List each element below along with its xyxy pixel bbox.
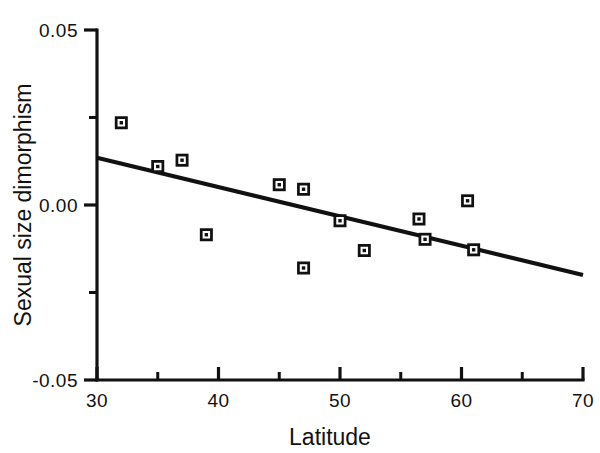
data-point-marker	[151, 160, 164, 173]
x-tick-label-70: 70	[572, 390, 594, 411]
x-tick-label-60: 60	[450, 390, 472, 411]
data-point-marker	[297, 262, 310, 275]
data-point-marker	[297, 183, 310, 196]
data-point-marker	[419, 233, 432, 246]
data-point-marker	[334, 214, 347, 227]
y-tick-label-bottom: -0.05	[32, 370, 78, 391]
x-tick-label-50: 50	[329, 390, 351, 411]
data-point-marker	[273, 178, 286, 191]
x-axis-title: Latitude	[289, 424, 371, 450]
data-point-marker	[358, 244, 371, 257]
data-point-marker	[412, 213, 425, 226]
scatter-plot-figure: 0.05 0.00 -0.05 Sexual size dimorphism 3…	[0, 0, 600, 453]
y-tick-label-mid: 0.00	[39, 195, 78, 216]
data-point-marker	[461, 194, 474, 207]
y-tick-label-top: 0.05	[39, 20, 78, 41]
x-tick-label-40: 40	[207, 390, 229, 411]
data-point-marker	[200, 228, 213, 241]
x-tick-label-30: 30	[86, 390, 108, 411]
data-point-marker	[115, 116, 128, 129]
plot-background	[0, 0, 600, 453]
y-axis-title: Sexual size dimorphism	[10, 84, 36, 327]
data-point-marker	[467, 243, 480, 256]
data-point-marker	[176, 154, 189, 167]
